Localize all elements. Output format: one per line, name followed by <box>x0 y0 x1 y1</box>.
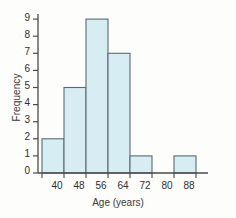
y-tick-label-1: 1 <box>18 148 30 159</box>
x-tick-label-56: 56 <box>89 180 113 191</box>
y-tick-label-3: 3 <box>18 114 30 125</box>
bar-56 <box>86 19 108 173</box>
histogram-screenshot: Frequency 9 8 7 6 5 4 3 2 1 0 40 48 56 6… <box>0 0 236 218</box>
bar-88 <box>174 156 196 173</box>
x-tick-label-80: 80 <box>155 180 179 191</box>
x-tick-label-88: 88 <box>177 180 201 191</box>
y-tick-label-5: 5 <box>18 80 30 91</box>
x-axis <box>38 173 208 178</box>
bar-72 <box>130 156 152 173</box>
y-tick-label-0: 0 <box>18 165 30 176</box>
y-tick-label-7: 7 <box>18 46 30 57</box>
bars-group <box>42 19 196 173</box>
y-axis <box>33 14 38 173</box>
x-tick-label-48: 48 <box>67 180 91 191</box>
x-tick-label-40: 40 <box>45 180 69 191</box>
y-tick-label-8: 8 <box>18 29 30 40</box>
x-tick-label-72: 72 <box>133 180 157 191</box>
x-axis-title: Age (years) <box>0 197 236 208</box>
x-tick-label-64: 64 <box>111 180 135 191</box>
y-tick-label-6: 6 <box>18 63 30 74</box>
y-tick-label-2: 2 <box>18 131 30 142</box>
histogram-chart: Frequency 9 8 7 6 5 4 3 2 1 0 40 48 56 6… <box>0 0 236 218</box>
bar-64 <box>108 53 130 173</box>
bar-48 <box>64 88 86 174</box>
bar-40 <box>42 139 64 173</box>
y-tick-label-9: 9 <box>18 12 30 23</box>
y-tick-label-4: 4 <box>18 97 30 108</box>
